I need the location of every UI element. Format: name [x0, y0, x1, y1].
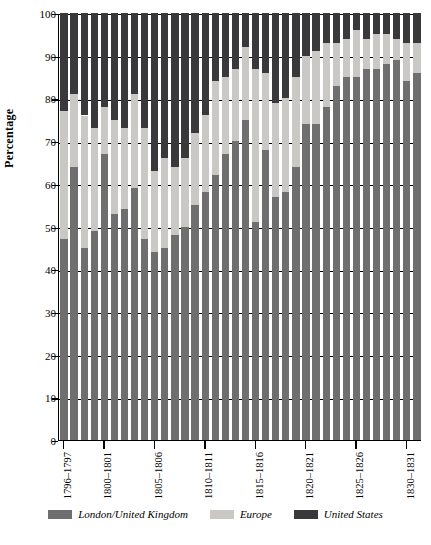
bar	[121, 15, 128, 440]
bar	[171, 15, 178, 440]
bar	[312, 15, 319, 440]
y-axis-tick-label: 10	[0, 393, 56, 403]
bar-segment-uk	[333, 86, 340, 440]
bar	[363, 15, 370, 440]
x-axis-tick-label: 1810–1811	[203, 452, 214, 499]
bar-segment-us	[141, 13, 148, 128]
legend-label-europe: Europe	[240, 508, 272, 520]
bar	[60, 15, 67, 440]
bar-segment-uk	[91, 231, 98, 440]
bar-segment-uk	[81, 248, 88, 440]
bar-segment-eu	[181, 158, 188, 226]
bar-segment-uk	[171, 235, 178, 440]
bar-segment-eu	[262, 73, 269, 150]
bar-segment-us	[181, 13, 188, 158]
x-axis-tick-label: 1830–1831	[404, 452, 415, 499]
bar-segment-eu	[383, 34, 390, 64]
bar	[262, 15, 269, 440]
bar-segment-eu	[323, 43, 330, 107]
legend-label-united-states: United States	[324, 508, 383, 520]
bar-segment-us	[161, 13, 168, 158]
bar-segment-us	[121, 13, 128, 128]
bar-segment-uk	[292, 167, 299, 440]
bar-segment-us	[323, 13, 330, 43]
y-axis-tick-label: 30	[0, 308, 56, 318]
legend-label-uk: London/United Kingdom	[78, 508, 188, 520]
bar-segment-us	[413, 13, 420, 43]
y-axis-tick-label: 90	[0, 52, 56, 62]
x-axis-tick-label: 1815–1816	[253, 452, 264, 499]
chart-legend: London/United Kingdom Europe United Stat…	[0, 508, 431, 520]
bar-segment-us	[262, 13, 269, 73]
bar	[161, 15, 168, 440]
bar-segment-eu	[81, 116, 88, 248]
bar-segment-eu	[413, 43, 420, 73]
bar-segment-eu	[373, 34, 380, 68]
bar-segment-uk	[272, 197, 279, 440]
bar-segment-eu	[393, 39, 400, 60]
bar-segment-us	[91, 13, 98, 128]
bar-segment-eu	[403, 43, 410, 81]
bar-segment-us	[363, 13, 370, 39]
x-axis-tick-mark	[154, 441, 155, 449]
bar-segment-us	[383, 13, 390, 34]
bar-segment-uk	[242, 120, 249, 440]
bar-segment-us	[292, 13, 299, 77]
bar-segment-us	[312, 13, 319, 51]
bar-segment-us	[202, 13, 209, 115]
legend-item-europe: Europe	[210, 508, 272, 520]
plot-area	[58, 14, 421, 441]
bar-segment-us	[272, 13, 279, 103]
bar-segment-uk	[121, 209, 128, 440]
bar-segment-uk	[403, 81, 410, 440]
x-axis-tick-mark	[103, 441, 104, 449]
bar-segment-us	[252, 13, 259, 69]
bar	[393, 15, 400, 440]
bar	[242, 15, 249, 440]
bar-segment-uk	[373, 69, 380, 440]
bar-segment-us	[111, 13, 118, 120]
bar-segment-eu	[222, 77, 229, 154]
y-axis-tick-mark	[52, 441, 58, 442]
bar-segment-uk	[70, 167, 77, 440]
bar-segment-uk	[232, 141, 239, 440]
bar	[191, 15, 198, 440]
bar-segment-uk	[191, 205, 198, 440]
bar-segment-eu	[282, 98, 289, 192]
y-axis-tick-label: 20	[0, 351, 56, 361]
bar-segment-us	[222, 13, 229, 77]
x-axis-tick-mark	[406, 441, 407, 449]
bar-segment-us	[81, 13, 88, 115]
x-axis-tick-label: 1825–1826	[354, 452, 365, 499]
bar-segment-us	[343, 13, 350, 39]
bar-segment-uk	[343, 77, 350, 440]
bar	[101, 15, 108, 440]
bar-segment-uk	[252, 222, 259, 440]
bar-segment-eu	[242, 47, 249, 120]
bar	[131, 15, 138, 440]
bar-segment-eu	[131, 94, 138, 188]
bar	[91, 15, 98, 440]
y-axis-tick-label: 100	[0, 9, 56, 19]
legend-swatch-uk-icon	[48, 510, 72, 519]
bar-segment-eu	[232, 69, 239, 142]
bar-segment-eu	[60, 111, 67, 239]
bar-segment-us	[282, 13, 289, 98]
y-axis-tick-label: 0	[0, 436, 56, 446]
bar-segment-eu	[202, 115, 209, 192]
bar	[81, 15, 88, 440]
bar	[292, 15, 299, 440]
x-axis-tick-mark	[355, 441, 356, 449]
bar-segment-eu	[191, 133, 198, 206]
bar-segment-eu	[252, 69, 259, 223]
bar-segment-uk	[222, 154, 229, 440]
bar-segment-uk	[323, 107, 330, 440]
bar	[272, 15, 279, 440]
bar-segment-uk	[60, 239, 67, 440]
bar	[222, 15, 229, 440]
bar-segment-uk	[131, 188, 138, 440]
bar-segment-us	[403, 13, 410, 43]
bar-segment-uk	[262, 150, 269, 440]
bar-segment-us	[353, 13, 360, 30]
bar-segment-us	[151, 13, 158, 171]
